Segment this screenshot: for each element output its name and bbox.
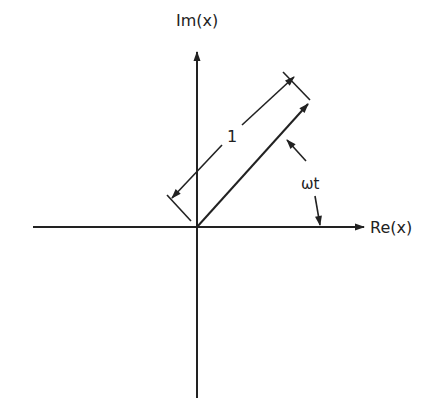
real-axis-label: Re(x) xyxy=(370,218,412,237)
angle-label: ωt xyxy=(301,175,320,193)
dimension-extension-lines xyxy=(167,72,310,221)
phasor-vector xyxy=(197,104,308,227)
diagram-svg: Im(x) Re(x) 1 ωt xyxy=(0,0,438,407)
imaginary-axis-label: Im(x) xyxy=(176,11,218,30)
phasor-diagram: Im(x) Re(x) 1 ωt xyxy=(0,0,438,407)
magnitude-label: 1 xyxy=(227,127,237,146)
